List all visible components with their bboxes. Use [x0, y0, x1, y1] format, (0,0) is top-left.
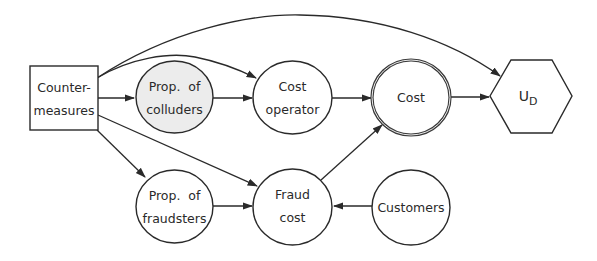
node-label: Cost	[397, 90, 425, 105]
node-label: Fraud	[275, 187, 310, 202]
node-utility: UD	[490, 60, 572, 133]
influence-diagram: Counter- measures Prop. of colluders Pro…	[0, 0, 597, 261]
node-label: colluders	[146, 102, 203, 117]
node-countermeasures: Counter- measures	[30, 66, 98, 130]
node-label: cost	[280, 210, 306, 225]
node-label: operator	[266, 102, 321, 117]
node-label: measures	[33, 103, 94, 118]
node-cost-operator: Cost operator	[253, 61, 332, 134]
node-label: Cost	[279, 79, 307, 94]
edge-countermeasures-to-fraudsters	[97, 130, 145, 177]
node-fraudsters: Prop. of fraudsters	[136, 170, 213, 243]
edge-fraud-cost-to-cost	[321, 125, 382, 180]
node-cost: Cost	[372, 60, 450, 135]
node-customers: Customers	[372, 170, 450, 245]
node-label: Counter-	[37, 80, 91, 95]
utility-subscript: D	[529, 95, 537, 108]
node-label: fraudsters	[143, 211, 207, 226]
node-label: Prop. of	[149, 79, 201, 94]
utility-label: U	[519, 88, 529, 104]
node-label: Customers	[377, 200, 444, 215]
node-colluders: Prop. of colluders	[136, 61, 213, 133]
node-label: Prop. of	[149, 188, 201, 203]
node-fraud-cost: Fraud cost	[253, 169, 332, 245]
